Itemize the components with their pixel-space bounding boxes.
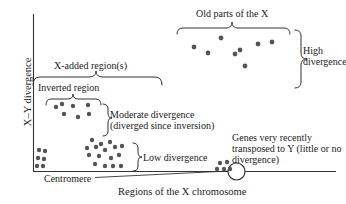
annotation-high-divergence: High divergence [303,45,346,67]
annotation-x-added-region: X-added region(s) [54,60,127,71]
data-point [93,162,97,166]
data-point [111,164,115,168]
x-axis-label: Regions of the X chromosome [118,186,246,198]
data-point [71,104,75,108]
data-point [108,140,112,144]
data-point [113,145,117,149]
data-point [87,153,91,157]
cluster-high-divergence [192,36,275,69]
data-point [87,112,91,116]
data-point [233,52,238,57]
y-axis-label: X–Y divergence [22,32,34,152]
brace-inverted-region [46,94,101,105]
data-point [218,161,222,165]
data-point [90,138,94,142]
data-point [238,48,243,53]
data-point [76,115,80,119]
data-point [62,112,66,116]
brace-old-parts-of-x [177,22,290,34]
data-point [192,45,197,50]
data-point [42,157,46,161]
data-point [256,42,261,47]
annotation-inverted-region: Inverted region [38,82,99,93]
data-point [119,164,123,168]
cluster-proximal-low-divergence [35,148,47,168]
data-point [43,149,47,153]
figure-xy-divergence-scatter: X–Y divergence Regions of the X chromoso… [0,0,346,204]
data-point [270,40,275,45]
data-point [97,154,101,158]
data-point [86,103,90,107]
data-point [206,51,211,56]
cluster-low-divergence [85,138,124,168]
data-point [222,167,226,171]
data-point [215,167,219,171]
data-point [109,156,113,160]
data-point [85,146,89,150]
annotation-centromere: Centromere [44,173,91,184]
data-point [54,105,58,109]
data-point [243,64,248,69]
data-point [219,36,224,41]
data-point [36,156,40,160]
data-point [41,164,45,168]
data-point [94,145,98,149]
data-point [120,144,124,148]
data-point [228,167,232,171]
annotation-old-parts-of-x: Old parts of the X [196,8,268,19]
data-point [103,164,107,168]
data-point [60,102,64,106]
cluster-moderate-divergence [54,102,91,119]
data-point [225,160,229,164]
brace-low-divergence [133,143,142,171]
data-point [117,153,121,157]
data-point [35,164,39,168]
data-point [99,142,103,146]
annotation-moderate-divergence: Moderate divergence (diverged since inve… [110,109,232,131]
data-point [103,148,107,152]
cluster-recently-transposed [215,160,232,171]
annotation-low-divergence: Low divergence [143,152,208,163]
annotation-recently-transposed: Genes very recently transposed to Y (lit… [232,132,344,166]
data-point [37,148,41,152]
